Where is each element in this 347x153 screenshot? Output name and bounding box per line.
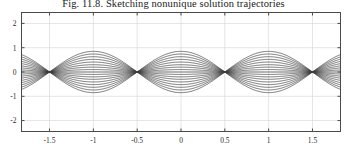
x-tick-label: 1 — [267, 136, 271, 145]
y-tick-label: -2 — [10, 116, 16, 125]
y-tick-label: 1 — [13, 44, 17, 53]
x-tick-label: -0.5 — [131, 136, 143, 145]
y-tick-label: 0 — [13, 68, 17, 77]
x-tick-label: 0 — [179, 136, 183, 145]
x-tick-label: -1 — [90, 136, 96, 145]
plot-area: -1.5-1-0.500.511.5-2-1012 — [0, 0, 347, 153]
x-tick-label: 0.5 — [220, 136, 230, 145]
y-tick-label: 2 — [13, 19, 17, 28]
x-tick-label: 1.5 — [308, 136, 318, 145]
figure-container: Fig. 11.8. Sketching nonunique solution … — [0, 0, 347, 153]
x-tick-label: -1.5 — [44, 136, 56, 145]
y-tick-label: -1 — [10, 92, 16, 101]
plot-svg: -1.5-1-0.500.511.5-2-1012 — [0, 0, 347, 153]
